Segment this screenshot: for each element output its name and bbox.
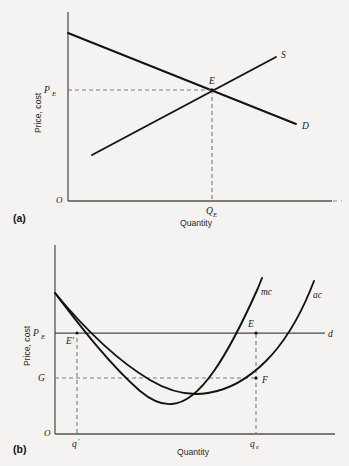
panel-a-equilibrium-label: E [208,76,215,86]
panel-b-qe-label: q [250,439,255,449]
panel-b-origin-label: O [44,428,51,438]
panel-b-f-label: F [261,375,268,385]
panel-b-eprime-label: E' [65,336,75,346]
panel-b-chart: mc ac d E' E F P E G O q ' q e Quantity … [0,233,349,466]
panel-a-tag: (a) [13,212,26,224]
panel-b-mc-label: mc [261,287,273,297]
panel-b-e-label: E [247,319,254,329]
panel-b-qe-subscript: e [256,443,259,450]
panel-b-ac-curve [55,281,314,394]
panel-a-y-axis-title: Price, cost [33,92,43,133]
panel-a-equilibrium-dot [210,88,213,91]
panel-a-demand-label: D [301,121,309,131]
panel-a-price-subscript: E [51,90,57,97]
panel-b-qprime-superscript: ' [78,437,80,444]
panel-b-g-label: G [38,373,45,383]
panel-b-price-label: P [32,328,39,338]
panel-b-qprime-label: q [72,439,77,449]
panel-a-origin-label: O [56,195,63,205]
panel-a-quantity-value-label: Q [206,206,213,216]
panel-a-demand-curve [68,33,296,124]
panel-b-ac-label: ac [313,290,323,300]
panel-b-price-subscript: E [40,333,46,340]
panel-b-eprime-dot [76,332,79,335]
panel-b-f-dot [254,376,257,379]
panel-b-y-axis-title: Price, cost [22,325,32,366]
panel-b-demand-label: d [328,329,333,339]
panel-a-quantity-value-subscript: E [212,211,218,218]
panel-a-chart: S D E P E Q E O Quantity Price, cost (a) [0,0,349,233]
panel-b-tag: (b) [13,443,26,455]
panel-b-x-axis-title: Quantity [177,447,210,457]
panel-a-x-axis-title: Quantity [180,218,213,228]
panel-a-supply-label: S [281,50,286,60]
panel-b-e-dot [254,331,257,334]
figure-root: S D E P E Q E O Quantity Price, cost (a) [0,0,349,466]
panel-a-price-label: P [43,85,50,95]
